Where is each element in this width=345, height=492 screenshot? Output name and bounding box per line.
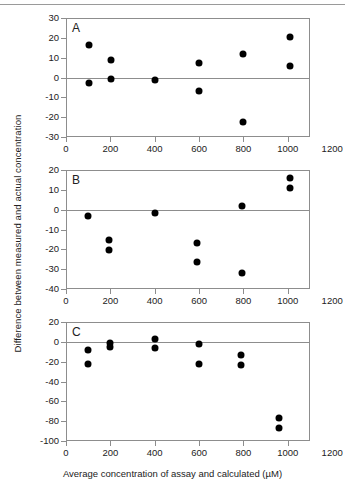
- x-tick-c-2: [155, 441, 156, 446]
- figure-canvas: Difference between measured and actual c…: [0, 0, 345, 492]
- x-tick-label-c-5: 1000: [277, 448, 298, 458]
- y-tick-label-c-0: 20: [48, 317, 59, 327]
- x-tick-label-c-6: 1200: [322, 448, 343, 458]
- x-tick-b-4: [243, 289, 244, 294]
- panel-a: A 3020100-10-20-30020040060080010001200: [66, 18, 310, 137]
- x-tick-c-5: [288, 441, 289, 446]
- y-tick-label-a-6: -30: [45, 132, 59, 142]
- panel-letter-c: C: [72, 326, 81, 338]
- x-tick-label-a-4: 800: [236, 144, 252, 154]
- y-tick-label-b-0: 20: [48, 165, 59, 175]
- x-tick-label-c-1: 200: [102, 448, 118, 458]
- data-point: [107, 344, 114, 351]
- y-tick-label-a-3: 0: [54, 73, 59, 83]
- x-tick-a-4: [243, 137, 244, 142]
- data-point: [240, 119, 247, 126]
- x-tick-label-a-5: 1000: [277, 144, 298, 154]
- panel-letter-b: B: [72, 174, 80, 186]
- x-axis-label: Average concentration of assay and calcu…: [0, 468, 345, 479]
- x-tick-label-b-6: 1200: [322, 296, 343, 306]
- data-point: [287, 174, 294, 181]
- x-tick-b-2: [155, 289, 156, 294]
- panel-letter-a: A: [72, 22, 80, 34]
- x-tick-c-1: [110, 441, 111, 446]
- data-point: [287, 184, 294, 191]
- y-tick-a-4: [61, 97, 66, 98]
- data-point: [86, 80, 93, 87]
- data-point: [275, 425, 282, 432]
- top-rule: [0, 4, 345, 5]
- y-tick-label-b-1: 10: [48, 185, 59, 195]
- x-tick-label-b-2: 400: [147, 296, 163, 306]
- y-tick-label-a-0: 30: [48, 13, 59, 23]
- x-tick-label-b-1: 200: [102, 296, 118, 306]
- y-axis-label: Difference between measured and actual c…: [12, 69, 23, 399]
- data-point: [275, 415, 282, 422]
- x-tick-label-c-0: 0: [63, 448, 68, 458]
- data-point: [85, 346, 92, 353]
- x-tick-label-a-1: 200: [102, 144, 118, 154]
- y-tick-c-2: [61, 362, 66, 363]
- x-tick-label-b-4: 800: [236, 296, 252, 306]
- data-point: [151, 335, 158, 342]
- x-tick-a-2: [155, 137, 156, 142]
- data-point: [238, 361, 245, 368]
- y-tick-a-5: [61, 117, 66, 118]
- data-point: [196, 341, 203, 348]
- zero-reference-line-c: [66, 342, 310, 343]
- x-tick-label-a-6: 1200: [322, 144, 343, 154]
- x-tick-b-3: [199, 289, 200, 294]
- x-tick-label-a-0: 0: [63, 144, 68, 154]
- y-tick-label-b-6: -40: [45, 284, 59, 294]
- x-tick-label-b-5: 1000: [277, 296, 298, 306]
- plot-frame-c: [66, 322, 310, 441]
- x-tick-label-c-2: 400: [147, 448, 163, 458]
- data-point: [106, 236, 113, 243]
- y-tick-b-0: [61, 170, 66, 171]
- data-point: [193, 259, 200, 266]
- data-point: [196, 59, 203, 66]
- y-tick-a-2: [61, 58, 66, 59]
- y-tick-label-c-5: -80: [45, 416, 59, 426]
- data-point: [287, 62, 294, 69]
- y-tick-label-b-3: -10: [45, 225, 59, 235]
- x-tick-a-1: [110, 137, 111, 142]
- y-tick-b-1: [61, 190, 66, 191]
- plot-frame-b: [66, 170, 310, 289]
- data-point: [193, 240, 200, 247]
- y-tick-c-0: [61, 322, 66, 323]
- y-tick-label-c-2: -20: [45, 357, 59, 367]
- data-point: [239, 270, 246, 277]
- y-tick-b-3: [61, 230, 66, 231]
- y-tick-label-b-5: -30: [45, 264, 59, 274]
- y-tick-label-b-4: -20: [45, 245, 59, 255]
- y-tick-label-a-2: 10: [48, 53, 59, 63]
- data-point: [151, 209, 158, 216]
- data-point: [239, 202, 246, 209]
- y-tick-c-4: [61, 401, 66, 402]
- y-tick-b-4: [61, 249, 66, 250]
- y-tick-label-a-1: 20: [48, 33, 59, 43]
- x-tick-c-0: [66, 441, 67, 446]
- x-tick-label-a-2: 400: [147, 144, 163, 154]
- y-tick-a-1: [61, 38, 66, 39]
- data-point: [196, 88, 203, 95]
- y-tick-label-c-6: -100: [40, 436, 59, 446]
- x-tick-label-b-0: 0: [63, 296, 68, 306]
- data-point: [108, 75, 115, 82]
- y-tick-c-5: [61, 421, 66, 422]
- x-tick-c-4: [243, 441, 244, 446]
- data-point: [108, 56, 115, 63]
- zero-reference-line-b: [66, 210, 310, 211]
- y-tick-label-b-2: 0: [54, 205, 59, 215]
- x-tick-b-0: [66, 289, 67, 294]
- y-tick-label-a-4: -10: [45, 93, 59, 103]
- panel-c: C 200-20-40-60-80-1000200400600800100012…: [66, 322, 310, 441]
- data-point: [151, 77, 158, 84]
- data-point: [86, 41, 93, 48]
- x-tick-b-1: [110, 289, 111, 294]
- x-tick-a-3: [199, 137, 200, 142]
- y-tick-a-0: [61, 18, 66, 19]
- data-point: [85, 212, 92, 219]
- x-tick-a-0: [66, 137, 67, 142]
